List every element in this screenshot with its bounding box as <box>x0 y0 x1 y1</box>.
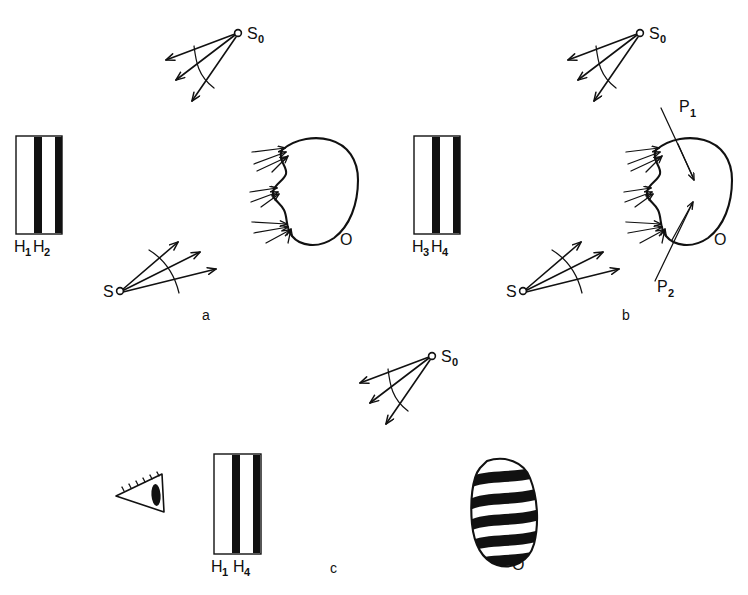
object-blob-a[interactable]: O <box>250 138 358 248</box>
eye-pupil <box>151 484 162 507</box>
plate-label-h4: H <box>431 238 443 255</box>
object-arrow-a3-3 <box>266 230 290 243</box>
panel-c: S 0 H 1 H 4 <box>116 348 540 578</box>
plate-label-h3: H <box>412 238 424 255</box>
ray-arrow-s-b-3 <box>526 269 619 292</box>
ray-arrow-s0-a-2 <box>176 35 235 80</box>
eye-icon <box>116 472 164 512</box>
panel-letter-a: a <box>202 307 210 323</box>
plane-label-p2-sub: 2 <box>668 287 674 299</box>
plate-label-h1-c-sub: 1 <box>222 566 228 578</box>
object-outline-b <box>647 138 732 245</box>
fringe-3 <box>468 509 540 532</box>
source-label-s-b: S <box>506 283 517 300</box>
object-arrow-b3-2 <box>628 227 662 233</box>
source-point-s0-c <box>429 353 436 360</box>
ray-arrow-s-b-2 <box>525 252 603 291</box>
object-label-b: O <box>714 231 726 248</box>
source-s0-a[interactable]: S 0 <box>166 25 264 101</box>
ray-arrow-s-a-2 <box>122 252 200 291</box>
source-point-s-b <box>520 288 527 295</box>
object-arrow-b1-1 <box>626 148 659 152</box>
plane-arrow-p1 <box>678 144 694 180</box>
plane-label-p1-sub: 1 <box>690 107 696 119</box>
eye-hatch-2 <box>129 484 131 488</box>
ray-arrow-s0-b-2 <box>578 35 637 80</box>
plate-emulsion-bar-left-c <box>232 455 240 553</box>
ray-arrow-s-b-1 <box>525 242 581 290</box>
ray-arrow-s0-a-1 <box>166 34 235 60</box>
source-label-s0-c-sub: 0 <box>452 356 458 368</box>
plane-label-p1: P <box>679 98 690 115</box>
source-point-s0-b <box>637 30 644 37</box>
fringe-2 <box>468 488 540 511</box>
object-fringe-c[interactable]: O <box>468 459 540 573</box>
figure-canvas: H 1 H 2 S 0 S <box>0 0 748 595</box>
ray-arrow-s0-c-1 <box>360 357 429 383</box>
panel-b: H 3 H 4 S 0 S P 1 <box>412 25 732 323</box>
source-point-s-a <box>117 288 124 295</box>
panel-letter-b: b <box>622 307 630 323</box>
plate-label-h3h4: H 3 H 4 <box>412 238 449 258</box>
source-label-s0-a-sub: 0 <box>258 33 264 45</box>
source-label-s0-a: S <box>247 25 258 42</box>
object-label-a: O <box>340 231 352 248</box>
plate-emulsion-bar-right-c <box>253 455 260 553</box>
wavefront-arc-s-a <box>149 250 179 293</box>
ray-arrow-s-a-1 <box>122 242 178 290</box>
ray-arrow-s-a-3 <box>123 269 216 292</box>
object-arrow-a3-2 <box>254 227 288 233</box>
source-label-s0-c: S <box>441 348 452 365</box>
hologram-plate-h3h4[interactable] <box>414 136 460 234</box>
ray-arrow-s0-b-1 <box>568 34 637 60</box>
plate-label-h1-sub: 1 <box>25 246 31 258</box>
source-s0-b[interactable]: S 0 <box>568 25 666 101</box>
panel-a: H 1 H 2 S 0 S <box>14 25 358 323</box>
source-point-s0-a <box>235 30 242 37</box>
object-blob-b[interactable]: O <box>624 138 732 248</box>
plate-label-h4-c: H <box>233 558 245 575</box>
object-arrow-a3-1 <box>252 222 287 224</box>
source-s-b[interactable]: S <box>506 242 619 300</box>
source-s-a[interactable]: S <box>103 242 216 300</box>
eye-hatch-3 <box>136 481 138 485</box>
plate-label-h4-sub: 4 <box>442 246 449 258</box>
object-fringes <box>468 466 540 573</box>
source-label-s0-b: S <box>649 25 660 42</box>
source-s0-c[interactable]: S 0 <box>360 348 458 424</box>
source-label-s0-b-sub: 0 <box>660 33 666 45</box>
object-arrow-b3-1 <box>626 222 661 224</box>
plate-label-h1-c: H <box>211 558 223 575</box>
wavefront-arc-s-b <box>552 250 582 293</box>
plate-emulsion-bar-right-b <box>453 137 460 233</box>
plate-emulsion-bar-left <box>34 137 42 233</box>
plate-emulsion-bar-left-b <box>432 137 440 233</box>
plate-label-h2-sub: 2 <box>44 246 50 258</box>
object-arrow-a1-1 <box>252 148 285 152</box>
object-outline-a <box>273 138 358 245</box>
plate-label-h3-sub: 3 <box>423 246 429 258</box>
plate-emulsion-bar-right <box>55 137 62 233</box>
plane-arrow-p2 <box>672 202 693 240</box>
hologram-plate-h1h4[interactable] <box>214 454 261 554</box>
observer-eye[interactable] <box>116 472 164 512</box>
hologram-plate-h1h2[interactable] <box>16 136 62 234</box>
plate-label-h4-c-sub: 4 <box>244 566 251 578</box>
object-arrow-b3-3 <box>640 230 664 243</box>
panel-letter-c: c <box>330 560 337 576</box>
plate-label-h1h2: H 1 H 2 <box>14 238 50 258</box>
plate-label-h2: H <box>33 238 45 255</box>
plane-label-p2: P <box>657 278 668 295</box>
eye-hatch-4 <box>143 478 145 482</box>
plate-label-h1h4: H 1 H 4 <box>211 558 251 578</box>
source-label-s-a: S <box>103 283 114 300</box>
plate-label-h1: H <box>14 238 26 255</box>
eye-hatch-1 <box>122 487 124 491</box>
ray-arrow-s0-c-2 <box>370 358 429 403</box>
object-label-c: O <box>512 556 524 573</box>
